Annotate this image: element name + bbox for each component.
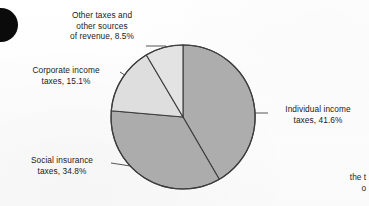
pie-label-social-insurance-taxes: Social insurance taxes, 34.8% [6,155,118,176]
page-edge-cropped-text: the t o [320,172,366,194]
pie-label-corporate-income-taxes: Corporate income taxes, 15.1% [10,65,122,86]
pie-label-other-taxes: Other taxes and other sources of revenue… [48,10,156,42]
chart-page: Other taxes and other sources of revenue… [0,0,369,206]
pie-label-individual-income-taxes: Individual income taxes, 41.6% [269,104,367,125]
